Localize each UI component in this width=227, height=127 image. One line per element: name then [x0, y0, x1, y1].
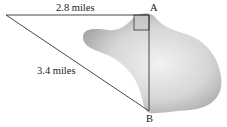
label-hypotenuse: 3.4 miles	[37, 65, 76, 76]
diagram-canvas: 2.8 miles 3.4 miles A B	[0, 0, 227, 127]
label-point-a: A	[150, 2, 158, 13]
lake-shape	[83, 13, 222, 113]
label-point-b: B	[146, 113, 153, 124]
label-top-side: 2.8 miles	[56, 2, 95, 13]
right-angle-marker	[134, 15, 149, 30]
diagram: 2.8 miles 3.4 miles A B	[0, 0, 227, 127]
